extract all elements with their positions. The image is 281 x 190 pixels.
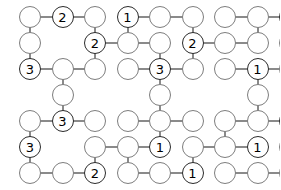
- node-r1-c3-empty[interactable]: [117, 32, 139, 54]
- node-r2-c8-empty[interactable]: [279, 58, 280, 80]
- node-label: 2: [188, 36, 196, 49]
- edge-h-r2-c7[interactable]: [267, 68, 281, 70]
- node-label: 1: [156, 140, 164, 153]
- node-r2-c3-empty[interactable]: [117, 58, 139, 80]
- node-r1-c4-empty[interactable]: [149, 32, 171, 54]
- node-r6-c1-empty[interactable]: [52, 162, 74, 184]
- node-r6-c7-empty[interactable]: [247, 162, 269, 184]
- node-r5-c2-empty[interactable]: [84, 136, 106, 158]
- node-r1-c7-empty[interactable]: [247, 32, 269, 54]
- node-r2-c0-value-3[interactable]: 3: [19, 58, 41, 80]
- node-r4-c1-value-3[interactable]: 3: [52, 110, 74, 132]
- node-r4-c2-empty[interactable]: [84, 110, 106, 132]
- node-r1-c8-empty[interactable]: [279, 32, 280, 54]
- node-r6-c6-empty[interactable]: [214, 162, 236, 184]
- node-r0-c1-value-2[interactable]: 2: [52, 6, 74, 28]
- node-label: 3: [26, 140, 34, 153]
- node-r0-c2-empty[interactable]: [84, 6, 106, 28]
- node-r5-c8-empty[interactable]: [279, 136, 280, 158]
- node-r3-c7-empty[interactable]: [247, 84, 269, 106]
- puzzle-board[interactable]: 211223313131121: [0, 0, 280, 190]
- node-label: 2: [58, 10, 66, 23]
- node-label: 3: [58, 114, 66, 127]
- node-r5-c0-value-3[interactable]: 3: [19, 136, 41, 158]
- node-label: 2: [91, 36, 99, 49]
- node-r0-c3-value-1[interactable]: 1: [117, 6, 139, 28]
- node-r4-c0-empty[interactable]: [19, 110, 41, 132]
- edge-h-r6-c7[interactable]: [267, 172, 281, 174]
- node-r1-c0-empty[interactable]: [19, 32, 41, 54]
- node-r4-c7-empty[interactable]: [247, 110, 269, 132]
- node-r5-c7-value-1[interactable]: 1: [247, 136, 269, 158]
- node-r2-c7-value-1[interactable]: 1: [247, 58, 269, 80]
- node-label: 3: [26, 62, 34, 75]
- node-r5-c6-empty[interactable]: [214, 136, 236, 158]
- node-r6-c0-empty[interactable]: [19, 162, 41, 184]
- node-label: 3: [156, 62, 164, 75]
- node-r1-c6-empty[interactable]: [214, 32, 236, 54]
- node-r1-c2-value-2[interactable]: 2: [84, 32, 106, 54]
- node-r5-c3-empty[interactable]: [117, 136, 139, 158]
- node-label: 1: [253, 140, 261, 153]
- node-r6-c5-value-1[interactable]: 1: [182, 162, 204, 184]
- node-r6-c2-value-2[interactable]: 2: [84, 162, 106, 184]
- node-label: 1: [188, 166, 196, 179]
- node-r0-c7-empty[interactable]: [247, 6, 269, 28]
- node-r6-c4-empty[interactable]: [149, 162, 171, 184]
- node-r0-c8-value-1[interactable]: 1: [279, 6, 280, 28]
- node-r6-c8-empty[interactable]: [279, 162, 280, 184]
- node-label: 1: [253, 62, 261, 75]
- node-r0-c5-empty[interactable]: [182, 6, 204, 28]
- node-r3-c1-empty[interactable]: [52, 84, 74, 106]
- node-r0-c6-empty[interactable]: [214, 6, 236, 28]
- node-r2-c6-empty[interactable]: [214, 58, 236, 80]
- node-r0-c4-empty[interactable]: [149, 6, 171, 28]
- node-r4-c4-empty[interactable]: [149, 110, 171, 132]
- edge-h-r4-c7[interactable]: [267, 120, 281, 122]
- node-r4-c8-value-1[interactable]: 1: [279, 110, 280, 132]
- node-r5-c4-value-1[interactable]: 1: [149, 136, 171, 158]
- node-r4-c3-empty[interactable]: [117, 110, 139, 132]
- edge-h-r0-c7[interactable]: [267, 16, 281, 18]
- node-label: 1: [123, 10, 131, 23]
- node-r4-c5-empty[interactable]: [182, 110, 204, 132]
- node-r1-c5-value-2[interactable]: 2: [182, 32, 204, 54]
- node-r4-c6-empty[interactable]: [214, 110, 236, 132]
- node-r6-c3-empty[interactable]: [117, 162, 139, 184]
- node-r2-c4-value-3[interactable]: 3: [149, 58, 171, 80]
- node-r2-c1-empty[interactable]: [52, 58, 74, 80]
- node-r2-c2-empty[interactable]: [84, 58, 106, 80]
- node-r0-c0-empty[interactable]: [19, 6, 41, 28]
- node-r3-c4-empty[interactable]: [149, 84, 171, 106]
- node-r5-c5-empty[interactable]: [182, 136, 204, 158]
- node-label: 2: [91, 166, 99, 179]
- node-r2-c5-empty[interactable]: [182, 58, 204, 80]
